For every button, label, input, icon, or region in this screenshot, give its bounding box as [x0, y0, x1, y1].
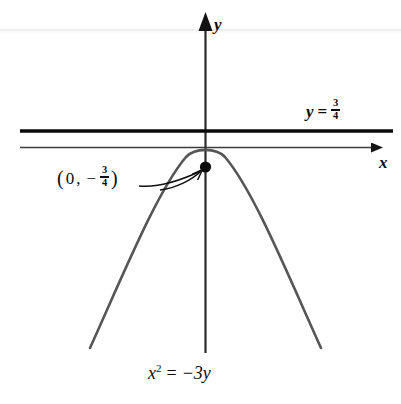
directrix-label-variable: y: [306, 103, 314, 120]
directrix-fraction-denominator: 4: [332, 111, 339, 122]
focus-label-x-value: 0: [66, 170, 75, 187]
focus-label-comma: ,: [76, 170, 80, 187]
x-axis-label: x: [379, 154, 388, 171]
directrix-label-fraction: 3 4: [331, 98, 340, 122]
focus-point-label: ( 0 , − 3 4 ): [57, 166, 118, 190]
parabola-figure: y x y = 3 4 ( 0 , − 3 4 ) x2 = −3y: [0, 0, 401, 404]
directrix-label-equals: =: [318, 103, 328, 120]
equation-lhs-exponent: 2: [156, 362, 162, 374]
figure-canvas: [0, 0, 401, 404]
focus-label-close-paren: ): [111, 168, 118, 188]
directrix-fraction-numerator: 3: [332, 98, 339, 109]
directrix-label: y = 3 4: [306, 99, 340, 123]
focus-label-open-paren: (: [57, 168, 64, 188]
equation-equals: =: [167, 364, 177, 382]
focus-fraction-denominator: 4: [101, 178, 108, 189]
equation-lhs: x2: [148, 364, 162, 382]
focus-fraction-numerator: 3: [101, 165, 108, 176]
y-axis-arrowhead: [199, 12, 213, 31]
equation-caption: x2 = −3y: [148, 364, 211, 382]
focus-point-dot: [200, 161, 211, 172]
focus-label-fraction: 3 4: [100, 165, 109, 189]
y-axis-label: y: [214, 16, 222, 33]
equation-rhs: −3y: [182, 364, 211, 382]
equation-lhs-variable: x: [148, 363, 156, 383]
focus-label-minus: −: [86, 170, 96, 187]
